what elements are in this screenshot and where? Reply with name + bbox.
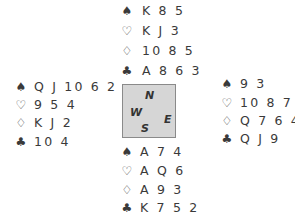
west-diamonds: K J 2 <box>34 114 73 132</box>
south-diamonds: A 9 3 <box>140 181 183 199</box>
heart-icon: ♡ <box>14 96 28 114</box>
heart-icon: ♡ <box>220 94 234 112</box>
east-clubs: Q J 9 <box>240 130 280 148</box>
heart-icon: ♡ <box>120 22 134 40</box>
spade-icon: ♠ <box>220 75 234 93</box>
east-hearts: 10 8 7 2 <box>240 94 295 112</box>
south-hand: ♠A 7 4 ♡A Q 6 ♢A 9 3 ♣K 7 5 2 <box>120 143 220 219</box>
spade-icon: ♠ <box>14 78 28 96</box>
compass-west: W <box>130 106 142 119</box>
compass-north: N <box>145 89 154 102</box>
compass-east: E <box>164 113 172 126</box>
diamond-icon: ♢ <box>220 112 234 130</box>
club-icon: ♣ <box>14 133 28 151</box>
club-icon: ♣ <box>120 199 134 217</box>
north-diamonds: 10 8 5 <box>142 42 195 60</box>
west-spades: Q J 10 6 2 <box>34 78 117 96</box>
north-hearts: K J 3 <box>142 22 181 40</box>
north-clubs: A 8 6 3 <box>142 62 202 80</box>
club-icon: ♣ <box>120 62 134 80</box>
south-hearts: A Q 6 <box>140 162 185 180</box>
north-hand: ♠K 8 5 ♡K J 3 ♢10 8 5 ♣A 8 6 3 <box>120 2 220 82</box>
east-diamonds: Q 7 6 4 <box>240 112 295 130</box>
west-hearts: 9 5 4 <box>34 96 77 114</box>
diamond-icon: ♢ <box>120 42 134 60</box>
heart-icon: ♡ <box>120 162 134 180</box>
south-clubs: K 7 5 2 <box>140 199 199 217</box>
compass-south: S <box>141 122 149 135</box>
club-icon: ♣ <box>220 130 234 148</box>
east-spades: 9 3 <box>240 75 266 93</box>
diamond-icon: ♢ <box>14 114 28 132</box>
west-hand: ♠Q J 10 6 2 ♡9 5 4 ♢K J 2 ♣10 4 <box>14 78 119 158</box>
diamond-icon: ♢ <box>120 181 134 199</box>
west-clubs: 10 4 <box>34 133 71 151</box>
south-spades: A 7 4 <box>140 143 183 161</box>
north-spades: K 8 5 <box>142 2 185 20</box>
spade-icon: ♠ <box>120 143 134 161</box>
east-hand: ♠9 3 ♡10 8 7 2 ♢Q 7 6 4 ♣Q J 9 <box>220 75 295 155</box>
compass-table: N W E S <box>122 84 176 138</box>
spade-icon: ♠ <box>120 2 134 20</box>
